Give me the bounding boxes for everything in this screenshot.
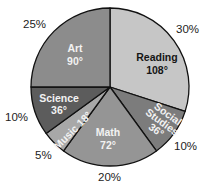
pie-chart: Reading 108° Social Studies 36° Math 72°…	[0, 0, 205, 184]
label-science-degrees: 36°	[51, 104, 67, 116]
percent-math: 20%	[98, 171, 121, 183]
label-math: Math	[96, 126, 121, 138]
percent-art: 25%	[23, 18, 46, 30]
label-art-degrees: 90°	[67, 55, 83, 67]
label-reading: Reading	[136, 51, 177, 63]
label-art: Art	[67, 42, 83, 54]
percent-science: 10%	[5, 111, 28, 123]
label-science: Science	[39, 92, 79, 104]
label-reading-degrees: 108°	[146, 64, 168, 76]
percent-social-studies: 10%	[174, 140, 197, 152]
percent-music: 5%	[35, 149, 52, 161]
percent-reading: 30%	[176, 23, 199, 35]
label-math-degrees: 72°	[100, 139, 116, 151]
